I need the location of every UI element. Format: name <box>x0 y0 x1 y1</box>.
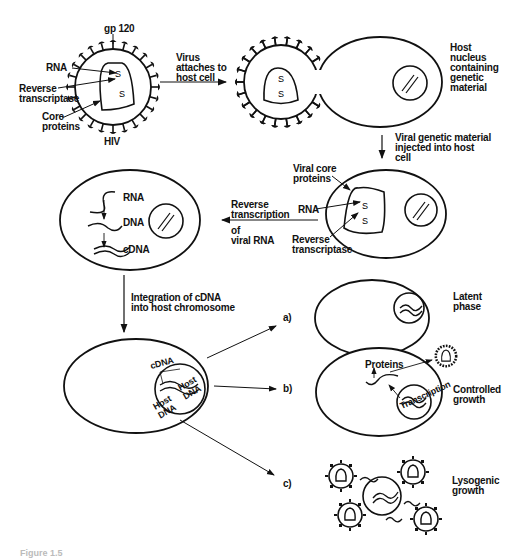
label-of-viral-rna: of viral RNA <box>231 226 274 246</box>
label-latent-phase: Latent phase <box>453 292 482 312</box>
hiv-virion: S S <box>66 40 160 134</box>
label-reverse-transcription: Reverse transcription <box>231 200 290 220</box>
label-rt-cdna: cDNA <box>123 245 149 255</box>
label-core-proteins: Core proteins <box>42 112 80 132</box>
svg-text:S: S <box>119 89 125 99</box>
svg-text:S: S <box>362 216 368 226</box>
label-rt-rna: RNA <box>123 193 144 203</box>
svg-text:S: S <box>115 69 121 79</box>
attached-virion: S S <box>235 36 327 128</box>
lysogenic-scene <box>325 456 442 535</box>
label-gp120: gp 120 <box>104 24 134 34</box>
label-reverse-transcriptase: Reverse transcriptase <box>19 84 79 104</box>
new-virion <box>436 346 456 366</box>
marker-a: a) <box>283 313 292 323</box>
label-proteins: Proteins <box>365 360 403 370</box>
label-rt-dna: DNA <box>123 218 144 228</box>
svg-text:S: S <box>362 201 368 211</box>
latent-cell <box>315 280 429 356</box>
label-reverse-transcriptase-2: Reverse transcriptase <box>292 235 352 255</box>
label-rna: RNA <box>46 63 67 73</box>
label-integration: Integration of cDNA into host chromosome <box>131 293 235 313</box>
label-lysogenic-growth: Lysogenic growth <box>452 476 499 496</box>
label-viral-core-proteins: Viral core proteins <box>293 164 336 184</box>
label-rna-2: RNA <box>298 205 319 215</box>
svg-text:S: S <box>278 89 284 99</box>
label-inject: Viral genetic material injected into hos… <box>395 133 491 163</box>
marker-c: c) <box>283 479 292 489</box>
label-controlled-growth: Controlled growth <box>453 385 501 405</box>
svg-text:S: S <box>278 74 284 84</box>
label-hiv: HIV <box>104 137 120 147</box>
label-host-nucleus: Host nucleus containing genetic material <box>450 43 499 93</box>
label-attach: Virus attaches to host cell <box>176 53 227 83</box>
marker-b: b) <box>283 384 292 394</box>
figure-caption: Figure 1.5 <box>20 548 63 558</box>
host-cell-1 <box>318 37 442 127</box>
